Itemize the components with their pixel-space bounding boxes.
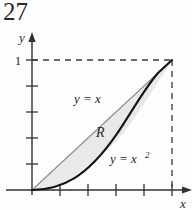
- region-label-R: R: [95, 125, 105, 140]
- y-tick-label-1: 1: [15, 53, 22, 68]
- y-axis-label: y: [17, 30, 25, 45]
- curve-label-y-equals-x: y = x: [72, 91, 101, 106]
- x-axis-arrow-icon: [182, 186, 192, 193]
- x-axis-label: x: [179, 196, 186, 210]
- figure-page: 27: [0, 0, 192, 210]
- curve-label-y-equals-x-squared-base: y = x: [108, 151, 137, 166]
- y-axis-arrow-icon: [28, 32, 35, 42]
- region-plot-figure: y x 1 y = x y = x 2 R: [0, 0, 192, 210]
- curve-label-y-equals-x-squared-exponent: 2: [145, 150, 150, 160]
